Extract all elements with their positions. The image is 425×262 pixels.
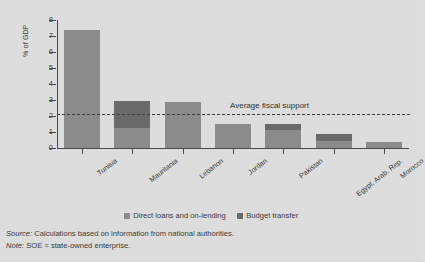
x-label-mauritania: Mauritania	[149, 157, 180, 183]
y-tick-label-4: 4	[40, 80, 53, 88]
bar-segment-direct-loans	[265, 130, 301, 148]
legend-label-budget: Budget transfer	[246, 211, 298, 220]
legend-item-direct: Direct loans and on-lending	[124, 211, 226, 220]
x-label-lebanon: Lebanon	[198, 157, 224, 180]
x-tick-3	[233, 149, 234, 154]
footnote-note-text: SOE = state-owned enterprise.	[24, 241, 130, 250]
x-label-pakistan: Pakistan	[298, 157, 324, 180]
plot-area: % of GDP 012345678 TunisiaMauritaniaLeba…	[0, 0, 422, 206]
legend-swatch-budget-icon	[237, 213, 243, 219]
bar-jordan	[215, 124, 251, 148]
bar-segment-direct-loans	[165, 102, 201, 148]
y-tick-label-2: 2	[40, 112, 53, 120]
y-tick-label-7: 7	[40, 32, 53, 40]
footnote-note: Note: SOE = state-owned enterprise.	[6, 240, 416, 252]
bar-egypt-arab-rep	[316, 134, 352, 148]
chart-legend: Direct loans and on-lendingBudget transf…	[0, 211, 422, 220]
x-tick-0	[82, 149, 83, 154]
footnote-source: Source: Calculations based on informatio…	[6, 228, 416, 240]
bar-mauritania	[114, 101, 150, 148]
y-axis-title: % of GDP	[22, 24, 29, 57]
bar-segment-direct-loans	[366, 142, 402, 148]
y-tick-label-1: 1	[40, 128, 53, 136]
footnote-source-text: Calculations based on information from n…	[32, 229, 234, 238]
footnote-source-lead: Source:	[6, 229, 32, 238]
x-label-egypt-arab-rep: Egypt, Arab. Rep.	[355, 157, 404, 197]
bar-segment-direct-loans	[316, 141, 352, 148]
y-tick-label-5: 5	[40, 64, 53, 72]
bar-segment-direct-loans	[215, 124, 251, 148]
average-fiscal-support-line	[57, 114, 410, 115]
bars-layer	[57, 20, 409, 148]
y-tick-label-0: 0	[40, 144, 53, 152]
bar-segment-direct-loans	[64, 30, 100, 148]
average-fiscal-support-label: Average fiscal support	[230, 102, 309, 110]
bar-segment-direct-loans	[114, 128, 150, 148]
x-label-jordan: Jordan	[247, 157, 269, 176]
y-tick-label-8: 8	[40, 16, 53, 24]
legend-swatch-direct-icon	[124, 213, 130, 219]
x-tick-4	[283, 149, 284, 154]
x-tick-1	[132, 149, 133, 154]
bar-lebanon	[165, 102, 201, 148]
legend-label-direct: Direct loans and on-lending	[133, 211, 225, 220]
figure-footnotes: Source: Calculations based on informatio…	[6, 228, 416, 251]
x-tick-5	[334, 149, 335, 154]
x-label-tunisia: Tunisia	[96, 157, 118, 177]
bar-morocco	[366, 142, 402, 148]
footnote-note-lead: Note:	[6, 241, 24, 250]
y-tick-label-6: 6	[40, 48, 53, 56]
x-tick-2	[183, 149, 184, 154]
bar-tunisia	[64, 30, 100, 148]
y-tick-label-3: 3	[40, 96, 53, 104]
x-tick-6	[384, 149, 385, 154]
legend-item-budget: Budget transfer	[237, 211, 298, 220]
bar-pakistan	[265, 124, 301, 148]
